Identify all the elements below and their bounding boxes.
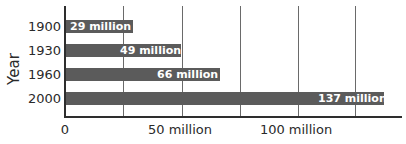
bar-value-label: 137 million [318,92,387,105]
bar-value-label: 29 million [70,20,131,33]
x-tick-label: 100 million [260,122,332,137]
x-tick-label: 50 million [148,122,212,137]
bar-value-label: 49 million [120,44,181,57]
category-label: 1930 [28,44,60,57]
category-label: 2000 [28,92,60,105]
bar-value-label: 66 million [157,68,218,81]
category-label: 1900 [28,20,60,33]
category-label: 1960 [28,68,60,81]
x-tick-label: 0 [61,122,69,137]
y-axis-title: Year [5,49,23,89]
x-axis-line [64,116,402,118]
